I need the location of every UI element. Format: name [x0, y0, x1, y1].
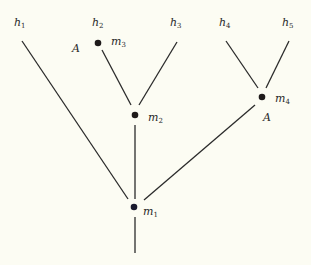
tree-diagram: h1 h2 h3 h4 h5 m3 A m2 m4 A m1 — [0, 0, 311, 265]
label-m4: m4 — [275, 92, 290, 106]
label-m3: m3 — [111, 35, 126, 49]
edge-h4-m4 — [226, 41, 258, 88]
edge-h3-m2 — [139, 42, 177, 105]
label-m1: m1 — [143, 205, 158, 219]
node-m1 — [131, 204, 138, 211]
node-m2 — [132, 112, 139, 119]
annotation-m3: A — [71, 42, 80, 55]
label-h3: h3 — [170, 16, 182, 30]
edge-h1-m1 — [22, 41, 128, 199]
label-h4: h4 — [219, 16, 231, 30]
edge-h5-m4 — [266, 41, 289, 88]
label-m2: m2 — [148, 111, 163, 125]
label-h2: h2 — [92, 16, 104, 30]
node-m3 — [95, 40, 102, 47]
annotation-m4: A — [262, 111, 271, 124]
label-h1: h1 — [14, 16, 26, 30]
node-m4 — [259, 94, 266, 101]
edge-m3-m2 — [102, 50, 131, 105]
label-h5: h5 — [282, 16, 294, 30]
